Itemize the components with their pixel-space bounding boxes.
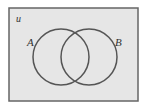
- universe-label: u: [16, 13, 21, 24]
- venn-diagram: u A B: [0, 0, 144, 105]
- set-b-label: B: [115, 36, 122, 48]
- universe-rectangle: [9, 8, 138, 101]
- set-a-label: A: [26, 36, 34, 48]
